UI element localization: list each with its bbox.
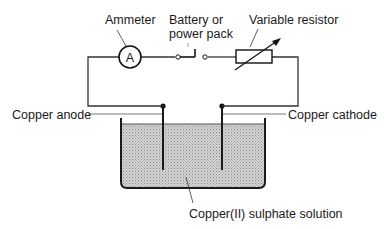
copper-anode-label: Copper anode (12, 108, 91, 122)
solution-label: Copper(II) sulphate solution (189, 207, 343, 221)
beaker (121, 118, 265, 188)
battery-label-line2: power pack (169, 27, 234, 41)
copper-cathode-label: Copper cathode (288, 108, 377, 122)
variable-resistor (235, 29, 281, 70)
ammeter-label: Ammeter (105, 13, 156, 27)
battery-power-pack (176, 43, 207, 59)
ammeter-leader-line (117, 30, 126, 46)
circuit-wires (88, 57, 298, 106)
resistor-leader-line (250, 29, 258, 47)
solution-fill (121, 124, 265, 188)
resistor-arrowhead (272, 38, 281, 46)
battery-terminal-left (176, 55, 180, 59)
battery-label-line1: Battery or (169, 13, 223, 27)
battery-terminal-right (203, 55, 207, 59)
ammeter: A (117, 30, 141, 68)
ammeter-symbol: A (126, 51, 135, 65)
electrolysis-circuit-diagram: A Ammeter Battery or power pack Variable… (0, 0, 384, 229)
variable-resistor-label: Variable resistor (249, 13, 338, 27)
